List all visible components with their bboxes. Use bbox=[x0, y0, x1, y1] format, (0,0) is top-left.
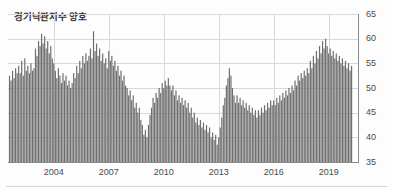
bar bbox=[217, 145, 218, 162]
bar bbox=[298, 76, 299, 162]
bar bbox=[238, 103, 239, 162]
bar bbox=[105, 58, 106, 162]
x-tick-label: 2019 bbox=[319, 168, 339, 177]
bar bbox=[101, 61, 102, 162]
bar bbox=[111, 56, 112, 162]
bar bbox=[211, 137, 212, 162]
bar bbox=[172, 86, 173, 162]
plot-area bbox=[8, 14, 358, 162]
bar bbox=[159, 88, 160, 162]
bar bbox=[137, 113, 138, 162]
bar bbox=[252, 108, 253, 162]
bar bbox=[183, 105, 184, 162]
bar bbox=[181, 98, 182, 162]
bar bbox=[204, 130, 205, 162]
bar bbox=[240, 98, 241, 162]
bar bbox=[308, 73, 309, 162]
bar bbox=[311, 68, 312, 162]
bar bbox=[81, 68, 82, 162]
bar bbox=[304, 71, 305, 162]
bar bbox=[316, 51, 317, 162]
bar bbox=[157, 98, 158, 162]
bar bbox=[18, 66, 19, 162]
bar bbox=[49, 53, 50, 162]
bar bbox=[178, 95, 179, 162]
bar bbox=[125, 86, 126, 162]
bar bbox=[256, 118, 257, 162]
bar bbox=[99, 49, 100, 162]
bar bbox=[330, 49, 331, 162]
bar bbox=[39, 46, 40, 162]
bar bbox=[50, 46, 51, 162]
bar bbox=[259, 115, 260, 162]
bar bbox=[200, 120, 201, 162]
bar bbox=[30, 63, 31, 162]
bar bbox=[194, 113, 195, 162]
bar bbox=[73, 73, 74, 162]
bar bbox=[166, 86, 167, 162]
bar bbox=[88, 56, 89, 162]
bar bbox=[61, 83, 62, 162]
bar bbox=[145, 130, 146, 162]
bar bbox=[65, 76, 66, 162]
bar bbox=[38, 41, 39, 162]
bar bbox=[53, 63, 54, 162]
bar bbox=[113, 66, 114, 162]
bar bbox=[146, 137, 147, 162]
bar bbox=[44, 36, 45, 162]
bar bbox=[33, 68, 34, 162]
bar bbox=[163, 88, 164, 162]
bar bbox=[94, 51, 95, 162]
bar bbox=[284, 98, 285, 162]
bar bbox=[148, 125, 149, 162]
bar bbox=[310, 61, 311, 162]
bar bbox=[180, 103, 181, 162]
bar bbox=[226, 86, 227, 162]
bar bbox=[249, 105, 250, 162]
bar bbox=[151, 108, 152, 162]
bar bbox=[32, 71, 33, 162]
bar bbox=[96, 44, 97, 162]
bar bbox=[267, 103, 268, 162]
bar bbox=[175, 90, 176, 162]
bar bbox=[293, 90, 294, 162]
bar bbox=[269, 108, 270, 162]
bar bbox=[156, 93, 157, 162]
bar bbox=[317, 58, 318, 162]
bar bbox=[233, 95, 234, 162]
bar bbox=[250, 113, 251, 162]
bar bbox=[246, 103, 247, 162]
bar bbox=[29, 73, 30, 162]
gridline-y-35 bbox=[8, 162, 358, 163]
bar bbox=[313, 56, 314, 162]
bar bbox=[319, 46, 320, 162]
bar bbox=[52, 58, 53, 162]
bar bbox=[264, 105, 265, 162]
bar bbox=[58, 68, 59, 162]
bar bbox=[55, 71, 56, 162]
bar bbox=[302, 78, 303, 162]
bar bbox=[127, 88, 128, 162]
bar bbox=[290, 93, 291, 162]
bar bbox=[333, 51, 334, 162]
bar bbox=[247, 110, 248, 162]
bar bbox=[12, 71, 13, 162]
bar bbox=[152, 98, 153, 162]
y-axis-line bbox=[358, 14, 359, 163]
y-tick-label: 55 bbox=[366, 59, 376, 68]
bar bbox=[223, 105, 224, 162]
bar bbox=[174, 95, 175, 162]
bar bbox=[14, 78, 15, 162]
bar bbox=[154, 103, 155, 162]
bar bbox=[232, 88, 233, 162]
bar bbox=[334, 58, 335, 162]
bar bbox=[339, 56, 340, 162]
bar bbox=[243, 100, 244, 162]
bar bbox=[102, 53, 103, 162]
bar bbox=[215, 135, 216, 162]
bar bbox=[177, 100, 178, 162]
bar bbox=[270, 100, 271, 162]
bar bbox=[136, 103, 137, 162]
y-tick-label: 45 bbox=[366, 108, 376, 117]
bar bbox=[97, 56, 98, 162]
